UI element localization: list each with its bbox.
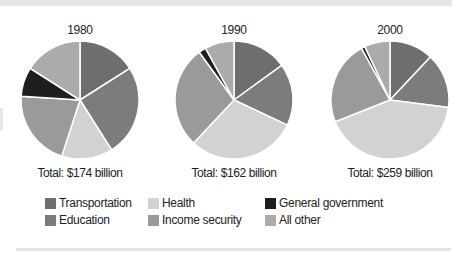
pie-chart-1980: 1980 Total: $174 billion — [10, 22, 150, 180]
pie-graphic — [328, 38, 452, 162]
pie-title: 2000 — [320, 22, 460, 38]
legend-label: Health — [162, 196, 195, 210]
pie-total-label: Total: $162 billion — [164, 166, 304, 180]
legend-label: Income security — [162, 213, 242, 227]
legend-label: Transportation — [59, 196, 132, 210]
pie-title: 1990 — [164, 22, 304, 38]
legend-swatch — [265, 198, 276, 209]
pie-title: 1980 — [10, 22, 150, 38]
bottom-divider — [16, 248, 451, 251]
legend-item-transportation: Transportation — [45, 196, 132, 210]
top-divider — [0, 0, 452, 6]
legend-swatch — [148, 215, 159, 226]
pie-chart-2000: 2000 Total: $259 billion — [320, 22, 460, 180]
pie-graphic — [172, 38, 296, 162]
legend-item-health: Health — [148, 196, 195, 210]
legend-swatch — [148, 198, 159, 209]
legend-item-education: Education — [45, 213, 110, 227]
legend-swatch — [45, 198, 56, 209]
legend-label: All other — [279, 213, 320, 227]
legend-label: General government — [279, 196, 383, 210]
legend-item-all-other: All other — [265, 213, 320, 227]
pie-chart-1990: 1990 Total: $162 billion — [164, 22, 304, 180]
legend-swatch — [45, 215, 56, 226]
pie-total-label: Total: $259 billion — [320, 166, 460, 180]
legend-swatch — [265, 215, 276, 226]
pie-graphic — [18, 38, 142, 162]
left-edge-mark — [0, 108, 3, 130]
legend-item-income-security: Income security — [148, 213, 242, 227]
legend-label: Education — [59, 213, 110, 227]
legend-item-general-government: General government — [265, 196, 383, 210]
pie-total-label: Total: $174 billion — [10, 166, 150, 180]
